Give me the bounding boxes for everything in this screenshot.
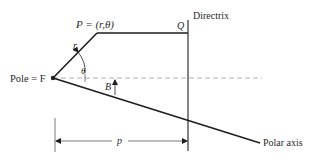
- theta-label: θ: [81, 66, 86, 76]
- radius-label: r: [73, 40, 77, 51]
- point-q-label: Q: [177, 20, 185, 31]
- directrix-label: Directrix: [193, 10, 229, 21]
- polar-axis-label: Polar axis: [263, 137, 303, 148]
- point-p-label: P = (r,θ): [75, 18, 114, 31]
- polar-axis-line: [53, 78, 260, 143]
- pole-label: Pole = F: [10, 73, 46, 84]
- b-label: B: [105, 81, 111, 92]
- p-distance-label: p: [116, 135, 122, 146]
- pole-point: [51, 76, 55, 80]
- polar-conic-diagram: P = (r,θ) Q Directrix Pole = F r θ B p P…: [0, 0, 315, 162]
